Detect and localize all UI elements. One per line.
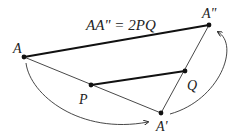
point-q: [183, 69, 188, 74]
point-a: [22, 55, 27, 60]
equation-label: AA" = 2PQ: [85, 17, 156, 33]
label-p: P: [78, 92, 88, 107]
label-q: Q: [187, 78, 197, 93]
label-a-prime: A': [155, 119, 169, 134]
diagram-canvas: A A" Q P A' AA" = 2PQ: [0, 0, 242, 135]
point-a-double-prime: [207, 23, 212, 28]
label-a-double-prime: A": [201, 6, 217, 21]
segment-p-q: [91, 71, 185, 85]
point-a-prime: [159, 111, 164, 116]
label-a: A: [12, 41, 22, 56]
point-p: [89, 83, 94, 88]
